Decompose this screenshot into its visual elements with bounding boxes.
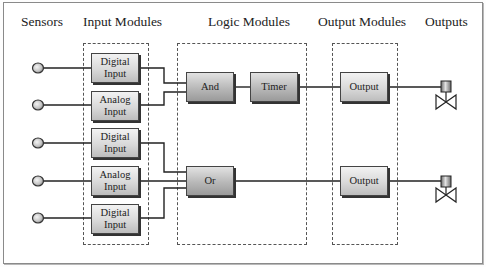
sensor-icon — [33, 63, 44, 73]
wiring — [0, 0, 486, 267]
input-module-digital-1: Digital Input — [91, 53, 139, 83]
diagram-canvas: Sensors Input Modules Logic Modules Outp… — [0, 0, 486, 267]
valve-icon — [436, 81, 456, 109]
output-module-2: Output — [340, 166, 388, 196]
input-module-label: Digital Input — [100, 207, 129, 231]
input-module-digital-2: Digital Input — [91, 128, 139, 158]
input-module-digital-3: Digital Input — [91, 204, 139, 234]
input-module-analog-1: Analog Input — [91, 91, 139, 121]
input-module-analog-2: Analog Input — [91, 166, 139, 196]
sensor-icons — [33, 63, 44, 223]
sensor-icon — [33, 138, 44, 148]
output-module-label: Output — [349, 175, 378, 187]
input-module-label: Digital Input — [100, 131, 129, 155]
logic-and-block: And — [186, 72, 234, 102]
logic-timer-block: Timer — [250, 72, 298, 102]
input-module-label: Analog Input — [100, 169, 131, 193]
output-module-label: Output — [349, 81, 378, 93]
sensor-icon — [33, 100, 44, 110]
valve-icon — [436, 176, 456, 202]
sensor-icon — [33, 213, 44, 223]
output-module-1: Output — [340, 72, 388, 102]
logic-or-label: Or — [204, 175, 215, 187]
logic-and-label: And — [201, 81, 219, 93]
input-module-label: Analog Input — [100, 94, 131, 118]
logic-timer-label: Timer — [261, 81, 286, 93]
logic-or-block: Or — [186, 166, 234, 196]
input-module-label: Digital Input — [100, 56, 129, 80]
sensor-icon — [33, 176, 44, 186]
